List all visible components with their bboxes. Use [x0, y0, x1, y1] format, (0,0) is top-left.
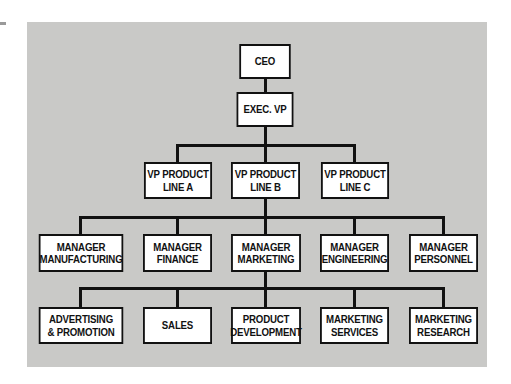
- node-ceo: CEO: [239, 44, 291, 79]
- margin-mark: [0, 22, 6, 25]
- connector-vp-c: [353, 144, 356, 162]
- node-vp-product-line-a: VP PRODUCT LINE A: [144, 162, 212, 199]
- node-label: MANAGER ENGINEERING: [322, 241, 388, 266]
- node-label: MANAGER MARKETING: [238, 241, 295, 266]
- connector-manager-bar: [79, 216, 445, 219]
- node-vp-product-line-b: VP PRODUCT LINE B: [231, 162, 300, 199]
- connector-mgr-mfg: [79, 216, 82, 234]
- node-label: MANAGER MANUFACTURING: [40, 241, 123, 266]
- node-label: ADVERTISING & PROMOTION: [47, 313, 114, 338]
- node-marketing-research: MARKETING RESEARCH: [409, 307, 478, 344]
- node-sales: SALES: [143, 307, 212, 344]
- node-vp-product-line-c: VP PRODUCT LINE C: [321, 162, 389, 199]
- node-label: MANAGER PERSONNEL: [414, 241, 472, 266]
- node-label: MANAGER FINANCE: [153, 241, 202, 266]
- node-manager-engineering: MANAGER ENGINEERING: [320, 234, 389, 272]
- node-label: MARKETING RESEARCH: [415, 313, 472, 338]
- connector-vp-a: [176, 144, 179, 162]
- node-label: VP PRODUCT LINE A: [147, 168, 208, 193]
- connector-execvp-down: [264, 126, 267, 146]
- connector-dept-bar: [79, 287, 445, 290]
- connector-mgr-fin: [176, 216, 179, 234]
- node-exec-vp: EXEC. VP: [236, 92, 293, 127]
- node-label: PRODUCT DEVELOPMENT: [230, 313, 302, 338]
- connector-vpb-down: [264, 198, 267, 218]
- node-label: SALES: [162, 319, 193, 332]
- node-label: VP PRODUCT LINE C: [324, 168, 385, 193]
- connector-vp-b: [264, 144, 267, 162]
- connector-adv: [79, 287, 82, 307]
- node-product-development: PRODUCT DEVELOPMENT: [231, 307, 301, 344]
- connector-mgr-eng: [353, 216, 356, 234]
- connector-ceo-execvp: [264, 78, 267, 92]
- node-manager-finance: MANAGER FINANCE: [143, 234, 212, 272]
- node-label: VP PRODUCT LINE B: [235, 168, 296, 193]
- node-marketing-services: MARKETING SERVICES: [320, 307, 389, 344]
- node-advertising-promotion: ADVERTISING & PROMOTION: [39, 307, 124, 344]
- node-label: MARKETING SERVICES: [326, 313, 383, 338]
- node-manager-personnel: MANAGER PERSONNEL: [409, 234, 478, 272]
- connector-pd: [264, 287, 267, 307]
- node-label: EXEC. VP: [243, 103, 286, 116]
- connector-mr: [442, 287, 445, 307]
- node-label: CEO: [255, 55, 275, 68]
- connector-sales: [176, 287, 179, 307]
- connector-mgr-mkt: [264, 216, 267, 234]
- node-manager-manufacturing: MANAGER MANUFACTURING: [39, 234, 124, 272]
- connector-ms: [353, 287, 356, 307]
- connector-mgr-per: [442, 216, 445, 234]
- node-manager-marketing: MANAGER MARKETING: [231, 234, 301, 272]
